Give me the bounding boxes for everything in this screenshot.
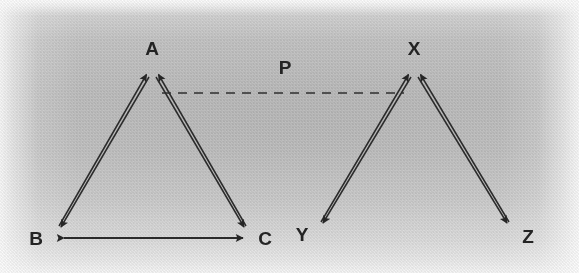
triangle-abc: A B C — [29, 38, 272, 249]
edge-y-to-x — [321, 75, 409, 223]
vector-diagram: A B C P X Y Z — [0, 0, 579, 273]
edge-z-to-x — [421, 75, 510, 223]
edge-a-to-b — [61, 77, 149, 227]
edge-x-to-z — [418, 77, 507, 223]
edge-a-to-c — [156, 77, 244, 227]
vertex-label-z: Z — [522, 226, 534, 247]
edge-b-to-a — [59, 75, 147, 227]
vertex-label-y: Y — [296, 224, 309, 245]
dashed-line-label-p: P — [279, 57, 292, 78]
edge-c-to-a — [159, 75, 247, 227]
vertex-label-a: A — [145, 38, 159, 59]
edge-x-to-y — [323, 77, 411, 223]
vertex-label-c: C — [258, 228, 272, 249]
triangle-xyz: X Y Z — [296, 38, 535, 247]
vertex-label-b: B — [29, 228, 43, 249]
scanned-figure: A B C P X Y Z — [0, 0, 579, 273]
vertex-label-x: X — [408, 38, 421, 59]
dashed-line-p-group: P — [162, 57, 404, 93]
